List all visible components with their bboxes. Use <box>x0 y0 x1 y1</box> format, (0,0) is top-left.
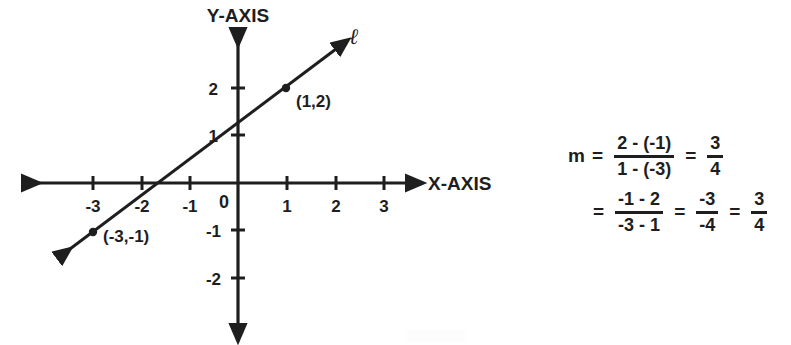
fraction-bar <box>696 211 718 214</box>
fraction-numerator: 3 <box>707 134 723 153</box>
point-neg3-neg1 <box>89 228 97 236</box>
fraction-result-3-4: 3 4 <box>707 134 723 179</box>
y-tick-label--1: -1 <box>206 222 221 241</box>
fraction-neg3-over-neg4: -3 -4 <box>696 190 718 235</box>
line-ell <box>62 46 340 255</box>
fraction-bar <box>707 155 723 158</box>
point-label-1-2: (1,2) <box>296 92 331 111</box>
fraction-denominator: -4 <box>696 216 718 235</box>
equals-sign-2a: = <box>593 201 604 223</box>
fraction-bar <box>615 211 663 214</box>
fraction-denominator: -3 - 1 <box>615 216 663 235</box>
x-tick-label--1: -1 <box>182 197 197 216</box>
x-tick-label--3: -3 <box>85 197 100 216</box>
equals-sign-1a: = <box>592 145 603 167</box>
y-tick-label-2: 2 <box>209 80 218 99</box>
x-tick-label--2: -2 <box>134 197 149 216</box>
slope-work: m = 2 - (-1) 1 - (-3) = 3 4 = -1 - 2 -3 … <box>568 128 788 240</box>
scan-artifact <box>405 330 465 342</box>
fraction-reversed-rise-over-run: -1 - 2 -3 - 1 <box>615 190 663 235</box>
figure-canvas: Y-AXIS X-AXIS ℓ 0 -3 -2 -1 1 2 3 2 1 -1 … <box>0 0 791 345</box>
fraction-rise-over-run: 2 - (-1) 1 - (-3) <box>614 134 674 179</box>
line-ell-segment <box>62 46 340 255</box>
fraction-denominator: 4 <box>707 160 723 179</box>
fraction-denominator: 4 <box>751 216 767 235</box>
line-ell-label: ℓ <box>349 24 359 49</box>
y-tick-label--2: -2 <box>206 270 221 289</box>
point-label-neg3-neg1: (-3,-1) <box>103 227 149 246</box>
x-axis <box>28 176 412 190</box>
equals-sign-2c: = <box>729 201 740 223</box>
fraction-numerator: -3 <box>696 190 718 209</box>
slope-equation-line-2: = -1 - 2 -3 - 1 = -3 -4 = 3 4 <box>568 184 788 240</box>
point-1-2 <box>282 84 290 92</box>
y-axis-label: Y-AXIS <box>207 5 269 26</box>
slope-variable-m: m <box>568 145 585 167</box>
x-tick-label-1: 1 <box>282 197 291 216</box>
fraction-final-3-4: 3 4 <box>751 190 767 235</box>
origin-label: 0 <box>219 192 229 212</box>
fraction-numerator: -1 - 2 <box>615 190 663 209</box>
x-tick-label-3: 3 <box>379 197 388 216</box>
x-axis-label: X-AXIS <box>428 173 491 194</box>
fraction-denominator: 1 - (-3) <box>614 160 674 179</box>
x-tick-label-2: 2 <box>331 197 340 216</box>
fraction-bar <box>614 155 674 158</box>
fraction-bar <box>751 211 767 214</box>
slope-equation-line-1: m = 2 - (-1) 1 - (-3) = 3 4 <box>568 128 788 184</box>
y-tick-label-1: 1 <box>209 127 218 146</box>
fraction-numerator: 2 - (-1) <box>614 134 674 153</box>
fraction-numerator: 3 <box>751 190 767 209</box>
equals-sign-2b: = <box>674 201 685 223</box>
equals-sign-1b: = <box>685 145 696 167</box>
